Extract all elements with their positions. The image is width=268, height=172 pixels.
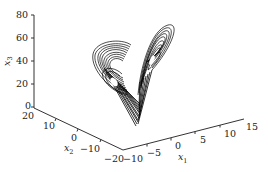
attractor-funnel	[104, 68, 152, 126]
x2-tick-neg20: −20	[104, 154, 124, 164]
attractor-left-lobe	[93, 41, 131, 95]
x3-axis-label: x3	[2, 56, 14, 66]
x1-tick-neg5: −5	[147, 148, 161, 158]
x2-tick-0: 0	[71, 133, 77, 143]
x3-tick-20: 20	[16, 79, 28, 89]
attractor-plot-3d	[0, 0, 268, 172]
x2-axis-ticks	[55, 119, 101, 143]
x1-tick-15: 15	[246, 122, 258, 132]
x1-tick-0: 0	[175, 141, 181, 151]
x3-tick-40: 40	[16, 56, 28, 66]
x1-tick-10: 10	[224, 129, 236, 139]
x3-tick-80: 80	[16, 10, 28, 20]
x1-axis-label: x1	[178, 152, 188, 164]
x3-tick-60: 60	[16, 33, 28, 43]
x1-tick-neg10: −10	[123, 154, 143, 164]
x2-tick-neg10: −10	[80, 144, 100, 154]
x2-tick-20: 20	[22, 111, 34, 121]
x2-axis-label: x2	[64, 143, 74, 155]
x1-tick-5: 5	[200, 135, 206, 145]
x2-tick-10: 10	[43, 121, 55, 131]
